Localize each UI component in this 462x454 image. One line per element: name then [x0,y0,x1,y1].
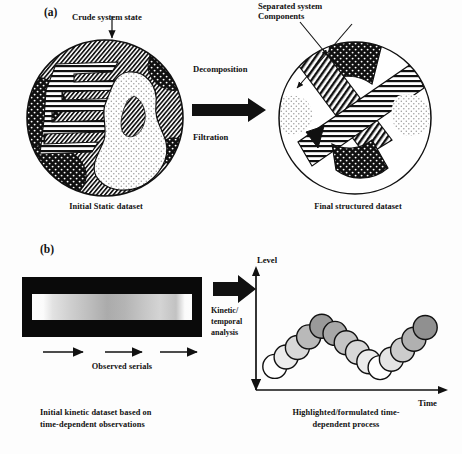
final-structured-dataset-circle [275,35,440,203]
kinetic-analysis-label-line1: Kinetic/ [211,306,238,315]
component-stipple-left [276,96,312,135]
initial-static-dataset-globe [27,40,190,197]
figure-root: (a) Crude system state Separated system … [0,0,462,454]
chart-circle [274,345,298,369]
chart-circle-chain [263,314,437,379]
component-horizontal-band-main [298,62,424,166]
chart-circle [334,331,358,355]
chart-y-axis-label: Level [257,255,277,265]
chart-circle [391,338,415,362]
kinetic-gel-panel [22,277,202,337]
gel-background [22,277,202,337]
kinetic-dataset-caption-line1: Initial kinetic dataset based on [40,408,210,418]
chart-circle [357,350,381,374]
decomposition-arrow [192,98,266,122]
separated-components-label-line2: Components [258,11,304,21]
time-level-chart [252,266,448,394]
chart-circle [285,336,309,360]
component-hatch-band-main [296,48,392,156]
component-stipple-right [392,94,430,136]
chart-circle [413,316,437,340]
panel-a-tag: (a) [44,6,57,20]
final-circle-outline [279,42,431,194]
kinetic-analysis-arrow [213,275,256,303]
highlighted-process-caption-line1: Highlighted/formulated time- [258,408,434,418]
kinetic-analysis-label-line2: temporal [211,317,242,326]
separated-components-label-line1: Separated system [258,1,322,11]
globe-horizontal-stripe-region [40,62,128,154]
globe-black-dot-region [27,77,66,166]
chart-circle [323,321,347,345]
components-arrow-2 [297,24,352,88]
filtration-label: Filtration [193,132,228,142]
kinetic-analysis-label-line3: analysis [211,328,238,337]
crude-system-state-label: Crude system state [72,12,142,22]
chart-circle [297,325,321,349]
kinetic-dataset-caption-line2: time-dependent observations [40,420,210,430]
chart-circle [310,314,334,338]
component-black-wedge [306,126,324,148]
globe-outline [27,40,183,196]
components-arrow-1 [300,22,328,56]
chart-circle [346,340,370,364]
highlighted-process-caption-line2: dependent process [258,420,434,430]
final-structured-dataset-caption: Final structured dataset [288,202,428,212]
observed-serials-label: Observed serials [62,362,182,372]
component-black-dots-bottom [332,140,388,178]
decomposition-label: Decomposition [193,64,247,74]
initial-static-dataset-caption: Initial Static dataset [36,202,176,212]
gel-band [32,294,192,320]
chart-x-axis-label: Time [418,398,437,408]
component-black-dots-top [326,35,382,84]
chart-circle [368,356,392,380]
globe-stipple-region [94,72,167,190]
panel-b-tag: (b) [40,243,54,257]
chart-circle [379,347,403,371]
chart-circle [263,354,287,378]
chart-circle [402,327,426,351]
